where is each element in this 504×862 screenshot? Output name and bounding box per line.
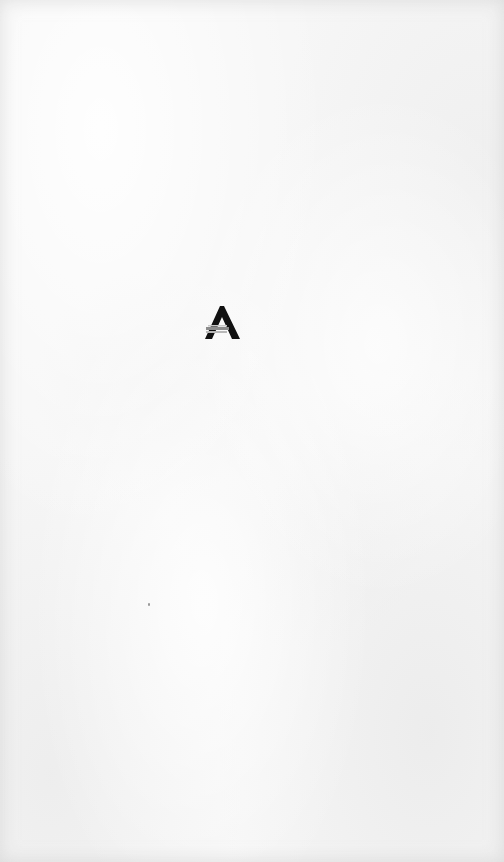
logo-triangle	[205, 306, 240, 339]
splash-screen	[0, 0, 504, 862]
logo-stripe	[206, 327, 229, 330]
background-speck	[148, 603, 150, 606]
brand-logo-svg	[203, 304, 241, 340]
background-vignette	[0, 0, 504, 862]
logo-stripe-lower	[206, 331, 227, 333]
logo-stripe-upper	[208, 325, 227, 327]
brand-logo-icon	[203, 304, 241, 340]
